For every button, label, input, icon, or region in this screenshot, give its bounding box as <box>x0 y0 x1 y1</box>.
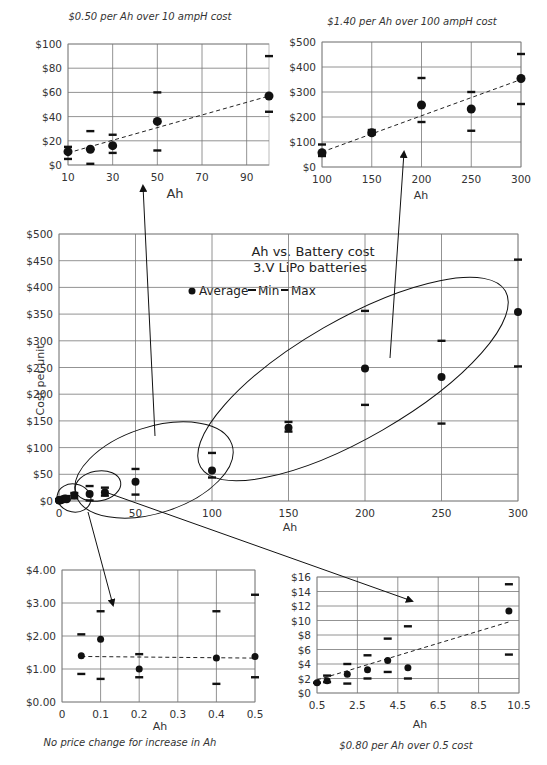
error-marker-max <box>418 77 426 79</box>
top-right-x-axis-title: Ah <box>414 189 429 202</box>
y-tick-label: $0 <box>49 159 62 171</box>
average-point <box>404 664 411 671</box>
average-point <box>438 373 446 381</box>
x-tick-label: 250 <box>461 173 481 185</box>
error-marker-max <box>77 633 85 635</box>
average-point <box>132 478 140 486</box>
y-tick-label: $450 <box>26 255 53 267</box>
x-tick-label: 200 <box>355 507 375 519</box>
x-tick-label: 50 <box>151 171 164 183</box>
error-marker-min <box>86 163 94 165</box>
top-right-chart-title: $1.40 per Ah over 100 ampH cost <box>327 16 497 27</box>
y-tick-label: $50 <box>33 468 53 480</box>
y-tick-label: $200 <box>26 388 53 400</box>
error-marker-max <box>343 663 351 665</box>
error-marker-min <box>517 103 525 105</box>
y-tick-label: $100 <box>289 136 316 148</box>
x-tick-label: 90 <box>240 171 253 183</box>
x-tick-label: 10.5 <box>507 699 530 711</box>
error-marker-min <box>109 152 117 154</box>
annotations-layer <box>55 152 535 605</box>
error-marker-min <box>467 130 475 132</box>
legend-average-label: Average <box>199 284 248 298</box>
error-marker-max <box>135 653 143 655</box>
error-marker-max <box>109 134 117 136</box>
legend-min-label: Min <box>258 284 279 298</box>
error-marker-max <box>265 55 273 57</box>
y-tick-label: $300 <box>289 86 316 98</box>
x-tick-label: 0.5 <box>247 708 264 720</box>
y-tick-label: $400 <box>289 61 316 73</box>
average-point <box>361 365 369 373</box>
error-marker-min <box>251 676 259 678</box>
legend-min-marker-icon <box>248 289 256 291</box>
top-left-chart-title: $0.50 per Ah over 10 ampH cost <box>69 11 233 22</box>
error-marker-min <box>265 111 273 113</box>
y-tick-label: $80 <box>42 62 62 74</box>
y-tick-label: $0 <box>303 161 316 173</box>
bottom-left-chart: $0.00$1.00$2.00$3.00$4.0000.10.20.30.40.… <box>26 564 263 720</box>
y-tick-label: $10 <box>291 615 311 627</box>
average-point <box>517 74 526 83</box>
top-right-chart: $0$100$200$300$400$500100150200250300 <box>289 36 531 185</box>
error-marker-max <box>97 610 105 612</box>
error-marker-min <box>384 671 392 673</box>
x-tick-label: 2.5 <box>349 699 366 711</box>
error-marker-max <box>467 91 475 93</box>
average-point <box>78 652 85 659</box>
callout-arrow <box>143 186 155 436</box>
x-tick-label: 0.5 <box>309 699 326 711</box>
trendline <box>81 656 255 658</box>
x-tick-label: 250 <box>431 507 451 519</box>
y-tick-label: $14 <box>291 586 311 598</box>
error-marker-min <box>132 493 140 495</box>
legend-average-marker-icon <box>189 288 196 295</box>
y-tick-label: $500 <box>289 36 316 48</box>
y-tick-label: $250 <box>26 362 53 374</box>
x-tick-label: 10 <box>61 171 74 183</box>
main-legend: Average Min Max <box>189 284 316 298</box>
y-tick-label: $60 <box>42 86 62 98</box>
error-marker-min <box>364 677 372 679</box>
error-marker-min <box>418 121 426 123</box>
y-tick-label: $40 <box>42 111 62 123</box>
y-tick-label: $0.00 <box>26 696 56 708</box>
error-marker-max <box>86 485 94 487</box>
bottom-left-x-axis-title: Ah <box>153 720 168 733</box>
error-marker-max <box>318 143 326 145</box>
x-tick-label: 4.5 <box>389 699 406 711</box>
error-marker-min <box>514 365 522 367</box>
average-point <box>314 679 321 686</box>
x-tick-label: 30 <box>106 171 119 183</box>
average-point <box>285 424 293 432</box>
error-marker-min <box>404 677 412 679</box>
x-tick-label: 0.2 <box>131 708 148 720</box>
highlight-ellipse <box>171 240 535 518</box>
error-marker-min <box>361 404 369 406</box>
bottom-right-chart: $0$2$4$6$8$10$12$14$160.52.54.56.58.510.… <box>291 571 531 711</box>
x-tick-label: 200 <box>411 173 431 185</box>
average-point <box>265 92 274 101</box>
figure-canvas: $0.50 per Ah over 10 ampH cost $1.40 per… <box>0 0 547 765</box>
error-marker-max <box>212 610 220 612</box>
y-tick-label: $0 <box>40 495 53 507</box>
average-point <box>417 101 426 110</box>
average-point <box>514 308 522 316</box>
average-point <box>367 128 376 137</box>
y-tick-label: $20 <box>42 135 62 147</box>
error-marker-min <box>212 683 220 685</box>
error-marker-min <box>153 149 161 151</box>
error-marker-max <box>323 674 331 676</box>
x-tick-label: 6.5 <box>430 699 447 711</box>
x-tick-label: 100 <box>202 507 222 519</box>
legend-max-label: Max <box>291 284 316 298</box>
y-tick-label: $1.00 <box>26 663 56 675</box>
average-point <box>384 657 391 664</box>
y-tick-label: $12 <box>291 600 311 612</box>
average-point <box>108 141 117 150</box>
error-marker-max <box>153 91 161 93</box>
average-point <box>324 677 331 684</box>
error-marker-max <box>384 637 392 639</box>
top-left-x-axis-title: Ah <box>166 186 183 201</box>
error-marker-max <box>364 654 372 656</box>
